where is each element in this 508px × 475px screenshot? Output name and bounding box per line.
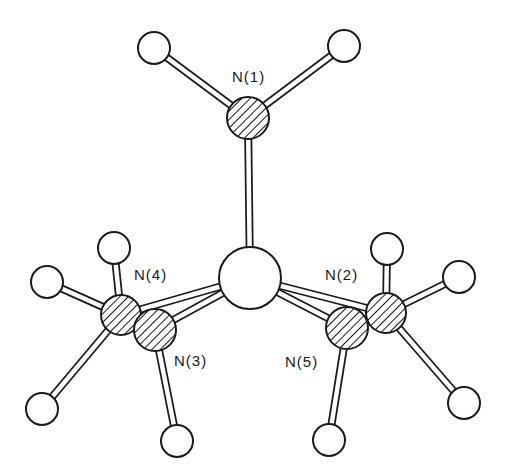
hydrogen-atom-h2b <box>443 261 475 293</box>
hydrogen-atom-h4c <box>26 393 58 425</box>
central-metal-atom <box>219 247 281 309</box>
hydrogen-atom-h4b <box>31 266 63 298</box>
hydrogen-atom-h5a <box>313 424 345 456</box>
hydrogen-atom-h4a <box>98 232 130 264</box>
nitrogen-atom-n1 <box>227 97 269 139</box>
molecule-svg: N(1) N(4) N(2) N(3) N(5) <box>0 0 508 475</box>
hydrogen-atom-h2c <box>448 387 480 419</box>
label-n5: N(5) <box>285 353 318 370</box>
label-n1: N(1) <box>232 68 265 85</box>
hydrogen-atom-h2a <box>371 233 403 265</box>
nitrogen-atom-n3 <box>134 309 176 351</box>
label-n2: N(2) <box>325 266 358 283</box>
nitrogen-atom-n2 <box>366 293 406 333</box>
hydrogen-atom-h1b <box>328 30 360 62</box>
hydrogen-atom-h1a <box>138 32 170 64</box>
molecule-diagram: N(1) N(4) N(2) N(3) N(5) <box>0 0 508 475</box>
hydrogen-atom-h3a <box>161 425 193 457</box>
label-n4: N(4) <box>134 266 167 283</box>
label-n3: N(3) <box>174 352 207 369</box>
nitrogen-atom-n5 <box>326 307 368 349</box>
